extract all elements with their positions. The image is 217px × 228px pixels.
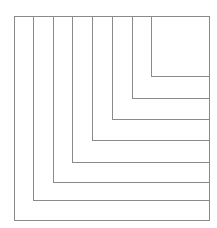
nested-rectangles-diagram xyxy=(0,0,217,228)
horizontal-dividers xyxy=(33,77,210,201)
vertical-dividers xyxy=(34,16,152,200)
